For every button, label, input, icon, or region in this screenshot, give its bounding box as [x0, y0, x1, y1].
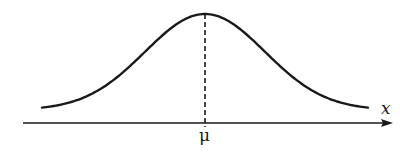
bell-curve: [42, 14, 368, 108]
axis-label-x: x: [381, 100, 391, 117]
mean-label: μ: [199, 127, 210, 144]
normal-distribution-diagram: μ x: [0, 0, 413, 157]
